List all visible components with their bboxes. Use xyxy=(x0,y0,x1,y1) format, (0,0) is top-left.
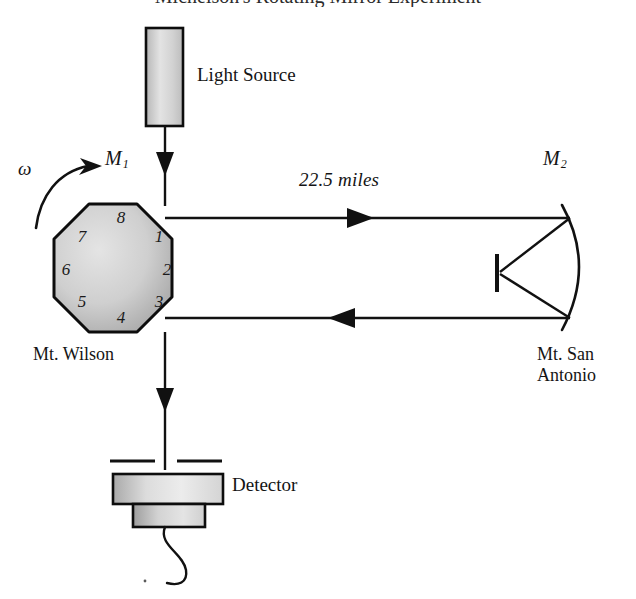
detector-unit xyxy=(110,461,223,584)
facet-number-1: 1 xyxy=(151,227,167,247)
cable-icon xyxy=(164,527,186,584)
light-source-box xyxy=(146,28,183,126)
mirror-2-label: M2 xyxy=(543,147,567,172)
beam-outgoing xyxy=(165,208,570,228)
facet-number-4: 4 xyxy=(113,308,129,328)
michelson-rotating-mirror-diagram: Michelson's Rotating Mirror Experiment xyxy=(0,0,636,599)
distance-label: 22.5 miles xyxy=(299,169,379,190)
arrowhead-down-icon xyxy=(156,152,174,176)
site-label-right-line1: Mt. San xyxy=(537,344,594,364)
light-source-label: Light Source xyxy=(197,64,296,85)
facet-number-3: 3 xyxy=(151,292,167,312)
arrowhead-left-icon xyxy=(328,308,355,328)
detector-label: Detector xyxy=(232,474,297,495)
arrowhead-down-icon xyxy=(156,388,174,412)
facet-number-7: 7 xyxy=(74,227,90,247)
mirror-2-letter: M xyxy=(543,147,560,169)
facet-number-8: 8 xyxy=(113,208,129,228)
beam-returning xyxy=(165,308,570,328)
site-label-left: Mt. Wilson xyxy=(33,344,114,364)
mirror-1-letter: M xyxy=(105,147,122,169)
beam-to-detector xyxy=(156,332,174,470)
facet-number-5: 5 xyxy=(74,292,90,312)
mirror-2-subscript: 2 xyxy=(561,157,567,171)
concave-mirror-m2 xyxy=(497,205,579,330)
site-label-right-line2: Antonio xyxy=(537,365,596,385)
beam-source-to-mirror xyxy=(156,126,174,206)
diagram-canvas xyxy=(0,0,636,599)
mirror-1-subscript: 1 xyxy=(123,157,129,171)
mirror-1-label: M1 xyxy=(105,147,129,172)
facet-number-6: 6 xyxy=(58,260,74,280)
facet-number-2: 2 xyxy=(159,260,175,280)
arrowhead-right-icon xyxy=(347,208,374,228)
omega-label: ω xyxy=(18,158,31,179)
